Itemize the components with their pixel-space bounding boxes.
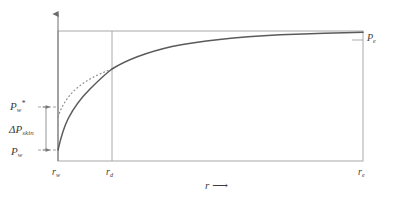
damaged-well-pressure-curve (58, 32, 363, 150)
p-w-star-superscript: * (22, 99, 26, 108)
r-d-subscript: d (110, 171, 113, 178)
p-w-subscript: w (18, 151, 23, 158)
p-w-star-base: P (10, 100, 17, 112)
p-w-star-subscript: w (17, 106, 22, 113)
delta-p-skin-base: ΔP (9, 123, 22, 135)
p-w-base: P (11, 145, 18, 157)
pressure-profile-figure: Pw* ΔPskin Pw Pe rw rd re r⟶ (0, 0, 394, 202)
p-w-label: Pw (11, 146, 22, 157)
r-e-subscript: e (362, 171, 365, 178)
r-d-tick-label: rd (106, 167, 113, 177)
p-e-label: Pe (367, 33, 376, 43)
delta-p-skin-label: ΔPskin (9, 124, 34, 135)
p-e-subscript: e (373, 37, 376, 44)
delta-p-skin-subscript: skin (22, 129, 34, 136)
radius-axis-arrow-icon: ⟶ (209, 179, 227, 191)
p-w-star-label: Pw* (10, 101, 25, 112)
r-w-subscript: w (56, 171, 60, 178)
r-e-tick-label: re (358, 167, 365, 177)
radius-axis-label: r⟶ (205, 180, 227, 191)
r-w-tick-label: rw (52, 167, 60, 177)
plot-frame (58, 31, 363, 161)
